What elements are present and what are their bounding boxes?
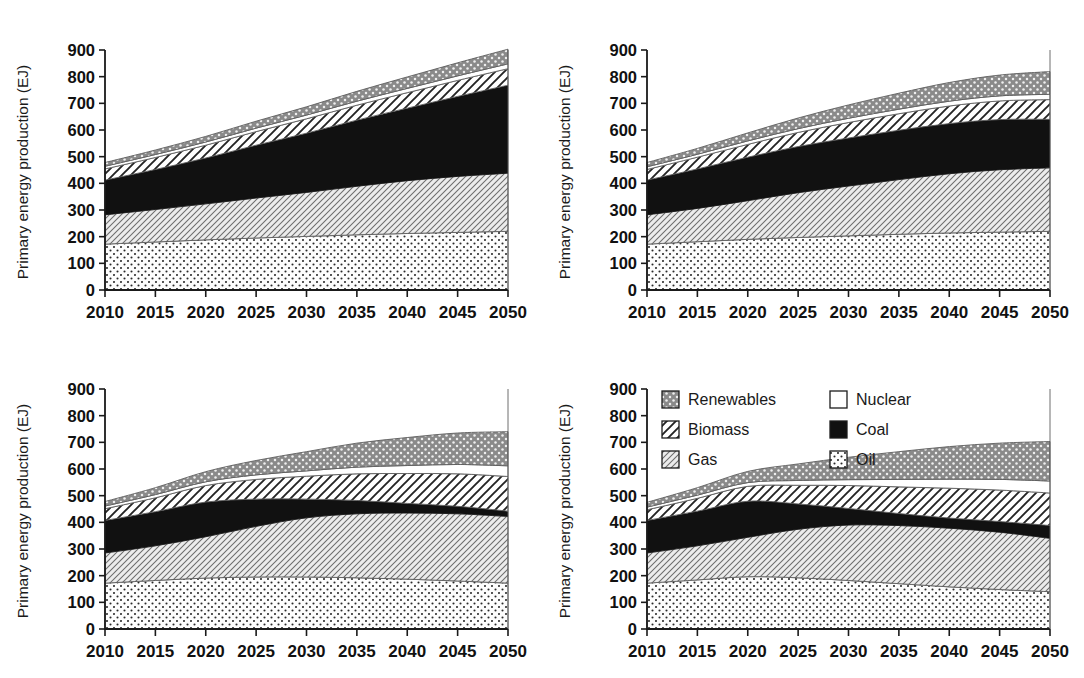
x-tick-label: 2040: [930, 303, 968, 322]
swatch-nuclear-icon: [830, 391, 847, 408]
swatch-gas-icon: [662, 451, 679, 468]
y-tick-label: 600: [67, 460, 95, 478]
y-axis-title: Primary energy production (EJ): [556, 404, 573, 619]
stacked-areas: [105, 49, 508, 290]
y-tick-label: 0: [628, 620, 637, 638]
y-tick-label: 600: [609, 460, 637, 478]
y-tick-label: 800: [67, 68, 95, 86]
x-tick-label: 2025: [237, 642, 275, 661]
y-tick-label: 400: [609, 513, 637, 531]
x-tick-label: 2045: [439, 642, 477, 661]
x-tick-label: 2010: [628, 303, 666, 322]
area-oil: [105, 577, 508, 629]
y-tick-label: 200: [609, 228, 637, 246]
x-tick-label: 2020: [729, 303, 767, 322]
x-tick-label: 2040: [388, 303, 426, 322]
x-tick-label: 2040: [388, 642, 426, 661]
legend-label: Nuclear: [856, 391, 912, 408]
swatch-biomass-icon: [662, 421, 679, 438]
x-tick-label: 2030: [288, 642, 326, 661]
swatch-oil-icon: [830, 451, 847, 468]
y-tick-label: 100: [609, 254, 637, 272]
y-tick-label: 900: [609, 380, 637, 398]
legend-label: Oil: [856, 451, 876, 468]
x-tick-label: 2015: [136, 642, 174, 661]
multi-panel-energy-figure: Primary energy production (EJ)0100200300…: [0, 0, 1084, 678]
y-axis-title: Primary energy production (EJ): [556, 65, 573, 280]
x-tick-label: 2030: [830, 642, 868, 661]
chart-panel-b: Primary energy production (EJ)0100200300…: [542, 0, 1084, 339]
y-tick-label: 300: [609, 201, 637, 219]
x-tick-label: 2025: [779, 642, 817, 661]
chart-panel-a: Primary energy production (EJ)0100200300…: [0, 0, 542, 339]
legend-label: Biomass: [688, 421, 749, 438]
x-tick-label: 2020: [187, 303, 225, 322]
x-tick-label: 2045: [981, 303, 1019, 322]
y-tick-label: 400: [609, 174, 637, 192]
y-tick-label: 200: [67, 567, 95, 585]
chart-panel-c: Primary energy production (EJ)0100200300…: [0, 339, 542, 678]
x-tick-label: 2030: [830, 303, 868, 322]
legend-item-biomass[interactable]: Biomass: [662, 421, 749, 438]
legend-label: Renewables: [688, 391, 776, 408]
x-tick-label: 2035: [880, 642, 918, 661]
y-tick-label: 800: [609, 407, 637, 425]
x-tick-label: 2030: [288, 303, 326, 322]
x-tick-label: 2010: [86, 642, 124, 661]
legend-label: Gas: [688, 451, 717, 468]
y-tick-label: 400: [67, 513, 95, 531]
x-tick-label: 2050: [1031, 303, 1069, 322]
stacked-areas: [647, 442, 1050, 629]
y-tick-label: 100: [609, 593, 637, 611]
y-tick-label: 600: [67, 121, 95, 139]
x-tick-label: 2015: [136, 303, 174, 322]
y-tick-label: 700: [609, 94, 637, 112]
y-tick-label: 0: [628, 281, 637, 299]
y-tick-label: 300: [609, 540, 637, 558]
x-tick-label: 2010: [628, 642, 666, 661]
y-tick-label: 100: [67, 593, 95, 611]
legend-item-gas[interactable]: Gas: [662, 451, 717, 468]
x-tick-label: 2035: [338, 303, 376, 322]
x-tick-label: 2015: [678, 642, 716, 661]
y-tick-label: 500: [67, 487, 95, 505]
x-tick-label: 2035: [880, 303, 918, 322]
y-axis-title: Primary energy production (EJ): [14, 404, 31, 619]
stacked-areas: [105, 432, 508, 629]
x-tick-label: 2025: [237, 303, 275, 322]
y-tick-label: 900: [609, 41, 637, 59]
y-tick-label: 800: [67, 407, 95, 425]
y-tick-label: 200: [609, 567, 637, 585]
legend-item-renewables[interactable]: Renewables: [662, 391, 776, 408]
y-tick-label: 0: [86, 620, 95, 638]
x-tick-label: 2050: [489, 642, 527, 661]
y-tick-label: 500: [609, 148, 637, 166]
y-tick-label: 600: [609, 121, 637, 139]
x-tick-label: 2015: [678, 303, 716, 322]
y-tick-label: 0: [86, 281, 95, 299]
legend-item-coal[interactable]: Coal: [830, 421, 889, 438]
legend-label: Coal: [856, 421, 889, 438]
x-tick-label: 2045: [439, 303, 477, 322]
y-tick-label: 900: [67, 380, 95, 398]
stacked-areas: [647, 72, 1050, 290]
y-tick-label: 200: [67, 228, 95, 246]
swatch-renewables-icon: [662, 391, 679, 408]
y-tick-label: 500: [609, 487, 637, 505]
x-tick-label: 2050: [1031, 642, 1069, 661]
y-tick-label: 700: [609, 433, 637, 451]
swatch-coal-icon: [830, 421, 847, 438]
y-tick-label: 500: [67, 148, 95, 166]
x-tick-label: 2025: [779, 303, 817, 322]
x-tick-label: 2035: [338, 642, 376, 661]
y-axis-title: Primary energy production (EJ): [14, 65, 31, 280]
y-tick-label: 400: [67, 174, 95, 192]
x-tick-label: 2020: [729, 642, 767, 661]
x-tick-label: 2020: [187, 642, 225, 661]
legend: RenewablesBiomassGasNuclearCoalOil: [662, 391, 912, 468]
x-tick-label: 2040: [930, 642, 968, 661]
y-tick-label: 300: [67, 540, 95, 558]
legend-item-nuclear[interactable]: Nuclear: [830, 391, 912, 408]
y-tick-label: 900: [67, 41, 95, 59]
y-tick-label: 300: [67, 201, 95, 219]
